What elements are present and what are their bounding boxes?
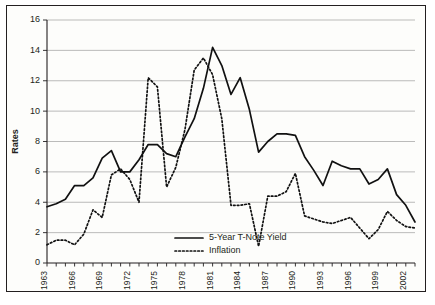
x-tick-label: 1996: [343, 271, 353, 290]
x-axis-labels-group: 1963196619691972197519781981198419871990…: [39, 271, 408, 290]
y-tick-label: 8: [35, 136, 40, 146]
x-tick-label: 1969: [94, 271, 104, 290]
y-tick-label: 2: [35, 227, 40, 237]
series-line-solid: [47, 47, 415, 222]
y-tick-label: 6: [35, 166, 40, 176]
x-tick-label: 1990: [287, 271, 297, 290]
y-axis-title: Rates: [10, 129, 20, 154]
legend-label: 5-Year T-Note Yield: [209, 232, 287, 242]
rates-line-chart: 0246810121416 19631966196919721975197819…: [7, 6, 427, 293]
x-tick-label: 1984: [232, 271, 242, 290]
chart-plot-area: 0246810121416 19631966196919721975197819…: [7, 6, 425, 291]
legend-label: Inflation: [209, 245, 241, 255]
y-tick-label: 0: [35, 257, 40, 267]
y-axis-labels-group: 0246810121416: [30, 14, 40, 267]
x-tick-label: 1966: [67, 271, 77, 290]
x-tick-label: 1972: [122, 271, 132, 290]
data-series-group: [47, 47, 415, 246]
series-line-dotted: [47, 58, 415, 246]
y-tick-label: 10: [30, 106, 40, 116]
x-tick-label: 1993: [315, 271, 325, 290]
x-tick-label: 1981: [205, 271, 215, 290]
chart-frame: 0246810121416 19631966196919721975197819…: [6, 5, 426, 292]
chart-legend: 5-Year T-Note YieldInflation: [175, 232, 287, 255]
x-tick-label: 1975: [149, 271, 159, 290]
y-tick-label: 14: [30, 45, 40, 55]
y-tick-label: 16: [30, 14, 40, 24]
x-tick-label: 1978: [177, 271, 187, 290]
x-tick-label: 1999: [370, 271, 380, 290]
y-tick-label: 12: [30, 75, 40, 85]
x-tick-label: 1963: [39, 271, 49, 290]
y-axis-ticks-group: [43, 20, 47, 263]
y-tick-label: 4: [35, 197, 40, 207]
x-tick-label: 2002: [398, 271, 408, 290]
x-tick-label: 1987: [260, 271, 270, 290]
